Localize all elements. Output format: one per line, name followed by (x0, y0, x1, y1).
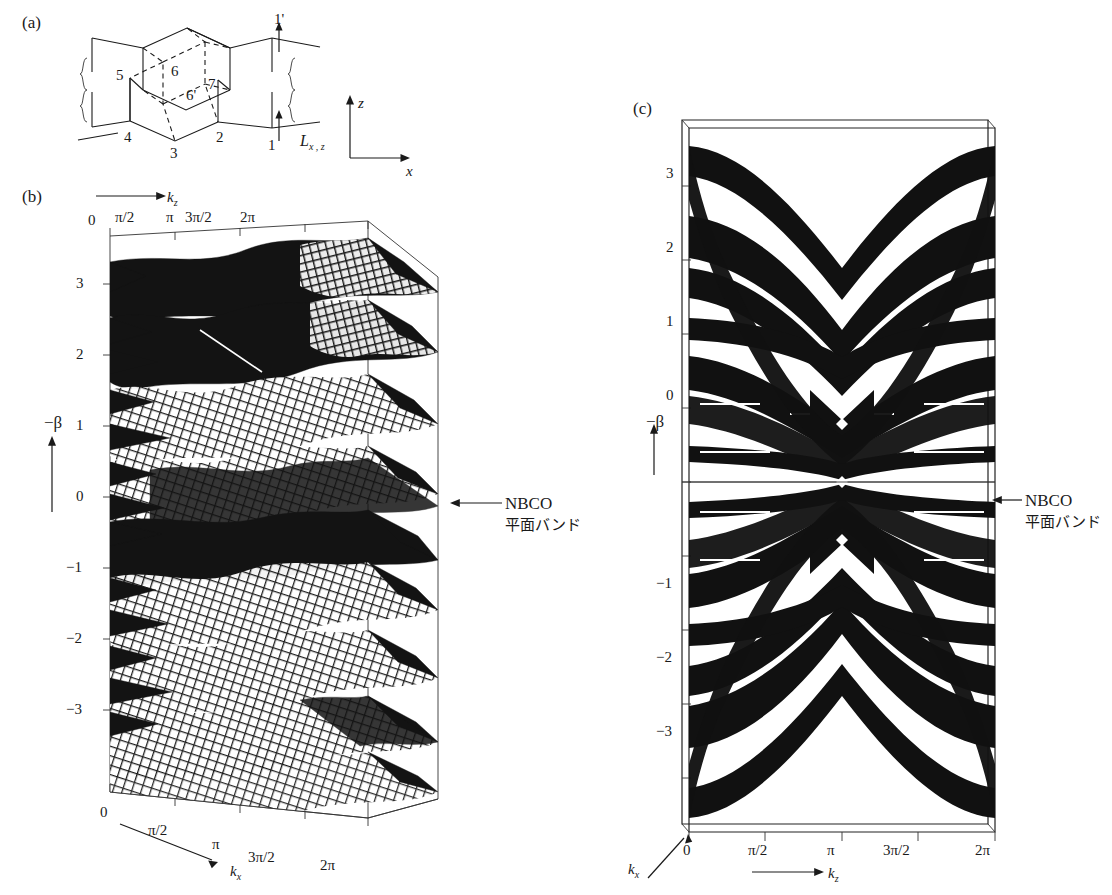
figure-root: (a) 1' 5 6 7 6' 4 3 2 1 Lx , z (0, 0, 1112, 895)
panel-c-plot (0, 0, 1112, 895)
